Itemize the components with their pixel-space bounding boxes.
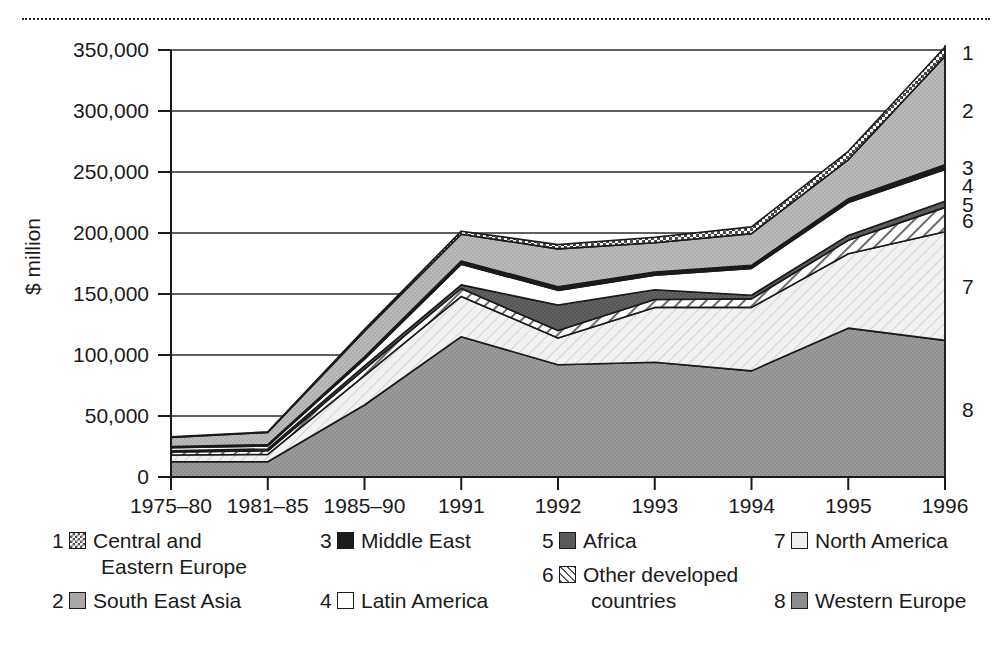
legend-column: 3Middle East4Latin America: [320, 528, 488, 620]
y-axis-title: $ million: [21, 218, 44, 295]
very-light-swatch: [791, 532, 808, 549]
stacked-area-chart: $ million 050,000100,000150,000200,00025…: [0, 0, 1003, 525]
chart-page: $ million 050,000100,000150,000200,00025…: [0, 0, 1003, 659]
legend-number: 4: [320, 588, 337, 614]
legend-label: Africa: [583, 528, 637, 554]
y-tick-label: 300,000: [73, 99, 149, 122]
right-series-number: 8: [962, 398, 974, 421]
right-series-number: 2: [962, 99, 974, 122]
y-tick-label: 50,000: [85, 404, 149, 427]
legend-label: South East Asia: [93, 588, 241, 614]
y-tick-label: 100,000: [73, 343, 149, 366]
y-tick-label: 350,000: [73, 38, 149, 61]
mid-grey-swatch: [69, 592, 86, 609]
legend-number: 2: [52, 588, 69, 614]
legend-label: Central andEastern Europe: [93, 528, 247, 580]
legend-number: 3: [320, 528, 337, 554]
x-tick-label: 1994: [728, 494, 775, 517]
legend-label-line2: Eastern Europe: [93, 554, 247, 580]
legend-label-line2: countries: [583, 588, 738, 614]
right-series-numbers: 87654321: [962, 41, 974, 421]
legend-item[interactable]: 3Middle East: [320, 528, 488, 554]
legend-number: 8: [774, 588, 791, 614]
legend-label: Western Europe: [815, 588, 966, 614]
dark-grey-swatch: [559, 532, 576, 549]
right-series-number: 7: [962, 275, 974, 298]
x-tick-label: 1995: [825, 494, 872, 517]
x-tick-label: 1981–85: [227, 494, 309, 517]
legend-number: 5: [542, 528, 559, 554]
legend-label: North America: [815, 528, 948, 554]
legend-label: Latin America: [361, 588, 488, 614]
legend-number: 7: [774, 528, 791, 554]
right-series-number: 1: [962, 41, 974, 64]
legend-number: 6: [542, 562, 559, 588]
legend-label: Middle East: [361, 528, 471, 554]
legend-item[interactable]: 6Other developedcountries: [542, 562, 738, 614]
y-tick-label: 250,000: [73, 160, 149, 183]
legend-item[interactable]: 2South East Asia: [52, 588, 247, 614]
y-tick-group: 050,000100,000150,000200,000250,000300,0…: [73, 38, 171, 488]
legend-column: 7North America8Western Europe: [774, 528, 966, 620]
right-series-number: 3: [962, 156, 974, 179]
y-tick-label: 200,000: [73, 221, 149, 244]
x-tick-label: 1991: [438, 494, 485, 517]
y-tick-label: 150,000: [73, 282, 149, 305]
black-swatch: [337, 532, 354, 549]
x-tick-label: 1996: [922, 494, 969, 517]
legend-item[interactable]: 4Latin America: [320, 588, 488, 614]
legend-column: 1Central andEastern Europe2South East As…: [52, 528, 247, 620]
legend-item[interactable]: 1Central andEastern Europe: [52, 528, 247, 580]
hatch-swatch: [559, 566, 576, 583]
legend-item[interactable]: 5Africa: [542, 528, 738, 554]
white-swatch: [337, 592, 354, 609]
x-tick-label: 1993: [631, 494, 678, 517]
legend-item[interactable]: 7North America: [774, 528, 966, 554]
x-tick-label: 1992: [535, 494, 582, 517]
x-tick-label: 1985–90: [324, 494, 406, 517]
x-tick-label: 1975–80: [130, 494, 212, 517]
legend-number: 1: [52, 528, 69, 554]
checker-pattern-swatch: [69, 532, 86, 549]
chart-legend: 1Central andEastern Europe2South East As…: [52, 528, 992, 654]
legend-item[interactable]: 8Western Europe: [774, 588, 966, 614]
grey-swatch: [791, 592, 808, 609]
legend-label: Other developedcountries: [583, 562, 738, 614]
x-tick-group: 1975–801981–851985–901991199219931994199…: [130, 477, 968, 517]
legend-column: 5Africa6Other developedcountries: [542, 528, 738, 620]
y-tick-label: 0: [137, 465, 149, 488]
